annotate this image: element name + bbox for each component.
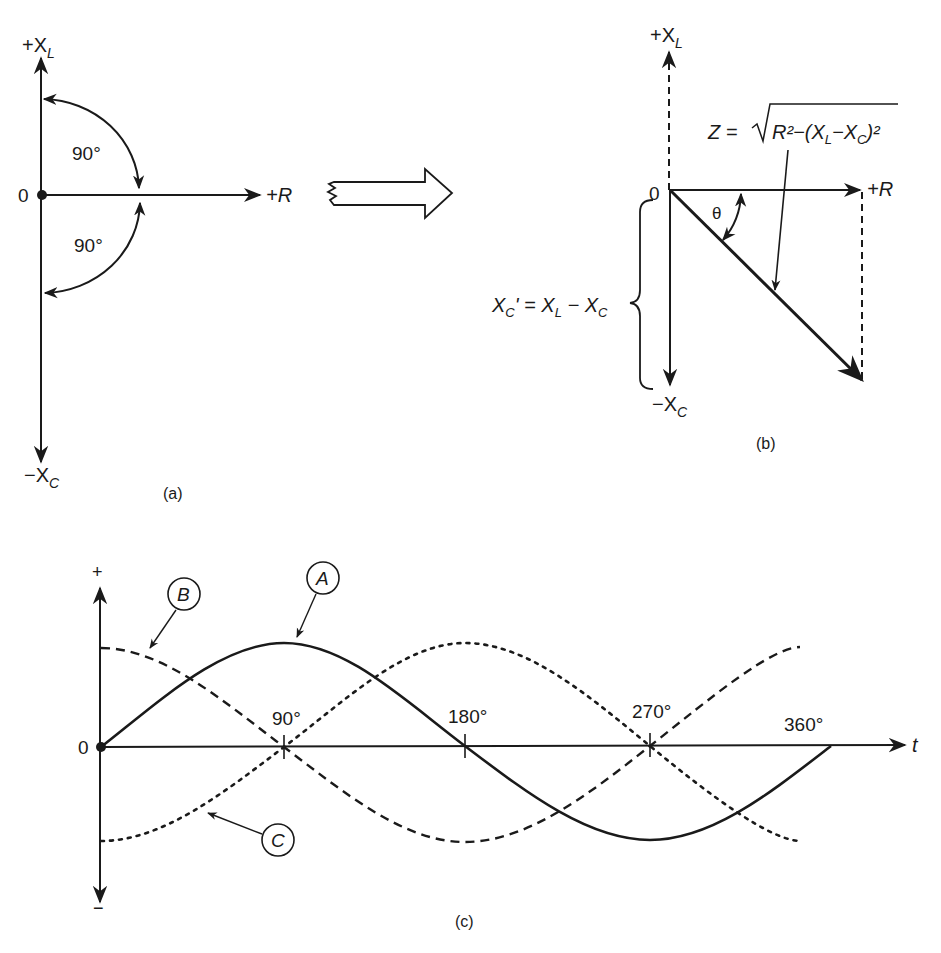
callout-a-label: A <box>315 568 329 589</box>
figure-b-caption: (b) <box>756 435 776 452</box>
origin-dot <box>37 190 47 200</box>
impedance-vector <box>670 190 862 380</box>
tick-label-360: 360° <box>784 714 823 735</box>
tick-label-90: 90° <box>272 708 301 729</box>
net-reactance-formula: XC' = XL − XC <box>491 294 608 320</box>
plus-xl-label: +XL <box>650 24 683 51</box>
theta-arc <box>723 194 741 240</box>
figure-c: A B C + − 0 t 90° 180° 270° 360° (c) <box>78 562 919 930</box>
origin-label: 0 <box>18 185 29 206</box>
theta-label: θ <box>712 204 721 223</box>
t-axis-label: t <box>912 734 919 756</box>
reactance-brace <box>630 200 653 389</box>
plus-r-label: +R <box>266 184 292 206</box>
figure-b: +XL 0 +R θ Z = R²−(XL−XC)² XC' = XL − XC… <box>491 24 898 452</box>
tick-label-180: 180° <box>448 706 487 727</box>
plus-r-label: +R <box>867 178 893 200</box>
figure-a: +XL 0 +R 90° 90° −XC (a) <box>18 34 292 502</box>
lower-angle-label: 90° <box>74 235 103 256</box>
svg-text:R²−(XL−XC)²: R²−(XL−XC)² <box>772 121 881 147</box>
minus-xc-label: −XC <box>652 393 688 420</box>
formula-leader-line <box>775 150 788 290</box>
callout-b-leader <box>150 610 176 648</box>
figure-a-caption: (a) <box>163 485 183 502</box>
tick-label-270: 270° <box>632 701 671 722</box>
callout-a-leader <box>297 594 316 637</box>
impedance-formula: Z = R²−(XL−XC)² <box>707 104 898 147</box>
upper-angle-label: 90° <box>72 143 101 164</box>
diagram-canvas: +XL 0 +R 90° 90° −XC (a) +XL 0 +R θ Z = … <box>0 0 941 953</box>
curve-c-neg-cosine <box>101 643 800 841</box>
origin-label: 0 <box>78 737 89 758</box>
svg-text:Z =: Z = <box>707 121 737 143</box>
origin-label: 0 <box>649 183 660 204</box>
hollow-right-arrow-icon <box>328 169 452 218</box>
figure-c-caption: (c) <box>455 913 474 930</box>
minus-xc-label: −XC <box>24 464 60 491</box>
callout-c-label: C <box>271 830 285 851</box>
curve-b-cosine <box>101 647 800 842</box>
plus-xl-label: +XL <box>22 34 55 61</box>
curve-a-sine <box>101 643 831 840</box>
minus-label: − <box>93 898 104 918</box>
callout-c-leader <box>208 813 262 834</box>
plus-label: + <box>92 562 103 582</box>
time-axis <box>100 745 905 747</box>
callout-b-label: B <box>177 584 190 605</box>
